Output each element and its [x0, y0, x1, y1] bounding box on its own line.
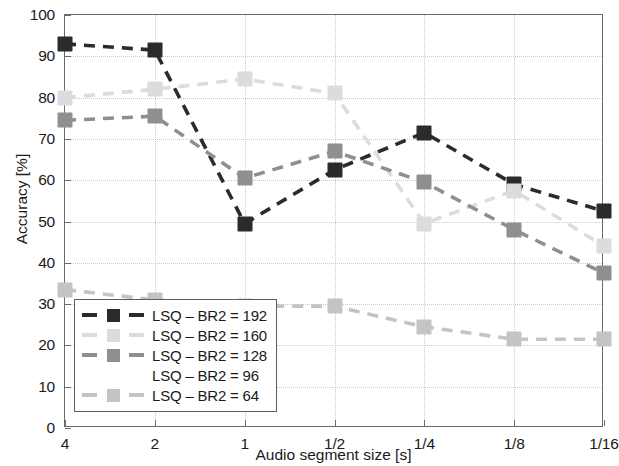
x-tick	[514, 420, 515, 426]
gridline-horizontal	[65, 180, 602, 181]
y-tick	[65, 428, 71, 429]
x-tick	[604, 420, 605, 426]
data-point-marker	[58, 36, 73, 51]
y-tick	[65, 222, 71, 223]
legend-label: LSQ – BR2 = 64	[152, 387, 259, 404]
y-tick-label: 80	[3, 89, 55, 107]
legend-dash-icon	[129, 313, 144, 317]
legend-dash-icon	[82, 313, 97, 317]
legend-dash-icon	[82, 393, 97, 397]
gridline-horizontal	[65, 263, 602, 264]
legend-label: LSQ – BR2 = 160	[152, 327, 267, 344]
plot-area: 0102030405060708090100 4211/21/41/81/16 …	[64, 14, 603, 427]
legend-marker-icon	[107, 389, 120, 402]
legend-label: LSQ – BR2 = 192	[152, 307, 267, 324]
y-tick	[65, 139, 71, 140]
legend-dash-icon	[129, 393, 144, 397]
x-tick	[155, 420, 156, 426]
legend-swatch	[82, 389, 144, 402]
legend-label: LSQ – BR2 = 96	[152, 367, 259, 384]
x-tick	[65, 420, 66, 426]
data-point-marker	[58, 282, 73, 297]
x-tick	[335, 420, 336, 426]
y-tick	[65, 15, 71, 16]
y-tick	[65, 263, 71, 264]
y-tick-label: 60	[3, 171, 55, 189]
data-point-marker	[58, 113, 73, 128]
y-tick	[65, 345, 71, 346]
y-tick-label: 40	[3, 254, 55, 272]
y-tick-label: 20	[3, 336, 55, 354]
y-tick-label: 90	[3, 47, 55, 65]
legend-item[interactable]: LSQ – BR2 = 64	[82, 385, 267, 405]
y-tick	[65, 98, 71, 99]
chart-legend: LSQ – BR2 = 192LSQ – BR2 = 160LSQ – BR2 …	[74, 299, 277, 412]
y-tick-label: 30	[3, 295, 55, 313]
legend-swatch	[82, 369, 144, 382]
legend-item[interactable]: LSQ – BR2 = 160	[82, 325, 267, 345]
x-axis-title: Audio segment size [s]	[64, 446, 603, 464]
y-tick-label: 10	[3, 378, 55, 396]
legend-swatch	[82, 349, 144, 362]
legend-dash-icon	[129, 353, 144, 357]
y-tick-label: 50	[3, 213, 55, 231]
y-tick	[65, 56, 71, 57]
gridline-horizontal	[65, 56, 602, 57]
gridline-vertical	[335, 15, 336, 426]
legend-marker-icon	[107, 309, 120, 322]
x-tick	[424, 420, 425, 426]
legend-marker-icon	[107, 329, 120, 342]
legend-item[interactable]: LSQ – BR2 = 128	[82, 345, 267, 365]
y-tick-label: 70	[3, 130, 55, 148]
y-tick-label: 0	[3, 419, 55, 437]
gridline-vertical	[424, 15, 425, 426]
gridline-vertical	[514, 15, 515, 426]
gridline-horizontal	[65, 222, 602, 223]
legend-marker-icon	[107, 369, 120, 382]
data-point-marker	[597, 239, 612, 254]
legend-dash-icon	[129, 333, 144, 337]
y-tick	[65, 304, 71, 305]
legend-dash-icon	[82, 333, 97, 337]
legend-dash-icon	[82, 353, 97, 357]
gridline-horizontal	[65, 98, 602, 99]
legend-dash-icon	[129, 373, 144, 377]
legend-label: LSQ – BR2 = 128	[152, 347, 267, 364]
legend-swatch	[82, 309, 144, 322]
legend-dash-icon	[82, 373, 97, 377]
data-point-marker	[597, 204, 612, 219]
x-tick	[245, 420, 246, 426]
y-tick	[65, 387, 71, 388]
y-tick-label: 100	[3, 6, 55, 24]
legend-swatch	[82, 329, 144, 342]
y-tick	[65, 180, 71, 181]
gridline-horizontal	[65, 139, 602, 140]
legend-marker-icon	[107, 349, 120, 362]
data-point-marker	[597, 266, 612, 281]
legend-item[interactable]: LSQ – BR2 = 96	[82, 365, 267, 385]
legend-item[interactable]: LSQ – BR2 = 192	[82, 305, 267, 325]
